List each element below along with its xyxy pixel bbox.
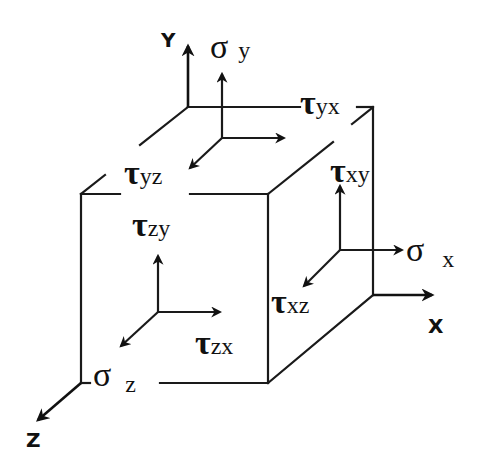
tau-yx-subscript: yx (316, 93, 340, 119)
tau-xz-subscript: xz (287, 292, 310, 318)
tau-zy-symbol: τ (132, 206, 148, 243)
sigma-z-symbol: σ (93, 356, 111, 393)
tau-xy-symbol: τ (330, 152, 346, 189)
cube-edge-top-right-diag (268, 142, 333, 194)
tau-zx-subscript: zx (211, 333, 234, 359)
sigma-x-label: σx (406, 233, 454, 267)
tau-xy-subscript: xy (346, 161, 370, 187)
tau-zx-symbol: τ (195, 324, 211, 361)
sigma-y-label: σy (210, 30, 250, 64)
tau-xz-symbol: τ (271, 283, 287, 320)
cube-edge-top-left-diag-upper (140, 107, 188, 145)
tau-yz-arrow (190, 138, 222, 168)
sigma-y-symbol: σ (210, 28, 228, 65)
tau-xz-label: τxz (271, 285, 309, 319)
tau-yx-symbol: τ (300, 84, 316, 121)
tau-zx-label: τzx (195, 326, 233, 360)
z-axis-arrow (38, 383, 81, 420)
tau-xz-arrow (304, 250, 340, 286)
sigma-x-subscript: x (442, 246, 454, 272)
cube-edge-top-left-diag-lower (81, 175, 105, 194)
sigma-z-arrow (121, 312, 158, 346)
tau-zy-label: τzy (132, 208, 170, 242)
tau-yx-label: τyx (300, 86, 340, 120)
tau-yz-subscript: yz (140, 163, 163, 189)
x-face-stresses (304, 186, 402, 286)
cube-edge-top-right-diag-short (352, 108, 372, 124)
x-axis-label: X (428, 316, 443, 336)
sigma-z-subscript: z (125, 371, 136, 397)
sigma-z-label: σz (93, 358, 136, 392)
tau-yz-symbol: τ (124, 154, 140, 191)
sigma-x-symbol: σ (406, 231, 424, 268)
y-axis-label: Y (161, 30, 175, 50)
z-axis-label: Z (26, 430, 41, 450)
tau-xy-label: τxy (330, 154, 370, 188)
y-face-stresses (190, 74, 284, 168)
tau-zy-subscript: zy (148, 215, 171, 241)
tau-yz-label: τyz (124, 156, 162, 190)
sigma-y-subscript: y (238, 37, 250, 63)
